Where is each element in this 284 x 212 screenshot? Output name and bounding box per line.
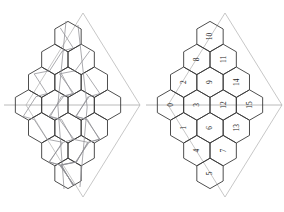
hexagon-label: 13 <box>232 124 241 132</box>
hexagon-cell <box>42 44 68 74</box>
hexagon-label: 7 <box>219 148 228 152</box>
right-tiling-svg: 1081129140312151613475 <box>142 0 284 212</box>
figure-canvas: 1081129140312151613475 <box>0 0 284 212</box>
hexagon-label: 11 <box>219 56 228 63</box>
hexagon-label: 0 <box>166 103 175 107</box>
hexagon-label: 10 <box>206 33 215 41</box>
hexagon-cell <box>68 44 94 74</box>
hexagon-label: 1 <box>179 126 188 130</box>
hexagon-label: 8 <box>192 57 201 61</box>
left-tiling-svg <box>0 0 142 212</box>
hexagon-label: 14 <box>232 78 241 86</box>
hexagon-cell <box>42 135 68 165</box>
hexagon-label: 6 <box>206 126 215 130</box>
figure-panel-right: 1081129140312151613475 <box>142 0 284 212</box>
zigzag-path-a <box>23 28 73 185</box>
hexagon-label: 15 <box>245 101 254 109</box>
hexagon-label: 4 <box>192 148 201 152</box>
hexagon-label: 3 <box>192 103 201 107</box>
hexagon-label: 9 <box>206 80 215 84</box>
hexagon-label: 5 <box>206 171 215 175</box>
hexagon-cell <box>29 67 55 97</box>
hexagon-label: 12 <box>219 101 228 109</box>
hexagon-cell <box>81 67 107 97</box>
hexagon-label: 2 <box>179 80 188 84</box>
figure-panel-left <box>0 0 142 212</box>
